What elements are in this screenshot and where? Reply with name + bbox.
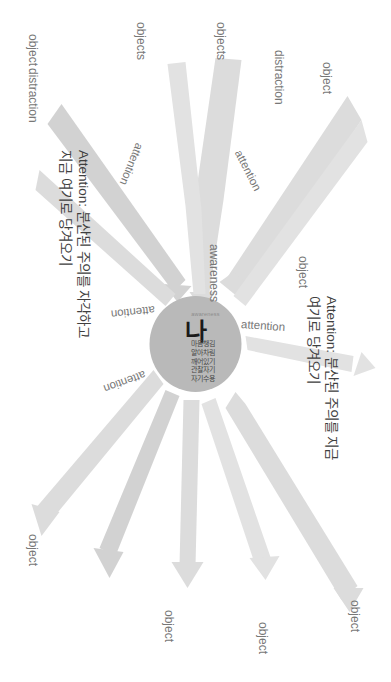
object-label-bottom-left: object <box>25 34 39 66</box>
distraction-label-top-left: distraction <box>271 50 285 105</box>
annotation-line2: 여기로 당겨오기 <box>305 296 320 384</box>
object-label-top-middle: object <box>295 256 309 288</box>
diagram-canvas: awareness 나 마음챙김 알아차림 깨어있기 관찰자기 자기수용 awa… <box>0 0 391 682</box>
objects-label-left-lower: objects <box>133 22 147 60</box>
object-label-bottom-right: object <box>25 534 39 566</box>
attention-annotation-top: Attention: 분산된 주의를 지금 여기로 당겨오기 <box>303 296 339 460</box>
center-term: 알아차림 <box>174 349 230 358</box>
center-term: 자기수용 <box>174 375 230 384</box>
awareness-label: awareness <box>206 244 220 302</box>
center-term: 마음챙김 <box>174 340 230 349</box>
center-term: 관찰자기 <box>174 366 230 375</box>
object-label-top-left: object <box>319 62 333 94</box>
annotation-line2: 지금 여기로 당겨오기 <box>57 150 72 266</box>
annotation-line1: Attention: 분산된 주의를 자각하고 <box>75 150 90 338</box>
object-label-right-upper: object <box>255 622 269 654</box>
objects-label-left-upper: objects <box>213 22 227 60</box>
center-term: 깨어있기 <box>174 358 230 367</box>
object-label-right-lower: object <box>161 610 175 642</box>
object-label-top-right: object <box>347 600 361 632</box>
attention-annotation-bottom: Attention: 분산된 주의를 자각하고 지금 여기로 당겨오기 <box>55 150 91 338</box>
annotation-line1: Attention: 분산된 주의를 지금 <box>323 296 338 460</box>
distraction-label-bottom-left: distraction <box>25 68 39 123</box>
center-terms-list: 마음챙김 알아차림 깨어있기 관찰자기 자기수용 <box>174 340 230 384</box>
